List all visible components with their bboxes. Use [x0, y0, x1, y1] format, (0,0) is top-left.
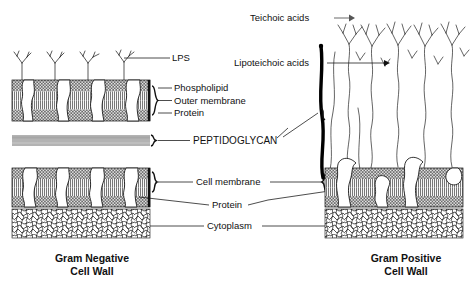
lipoteichoic-acid-strands — [330, 52, 360, 170]
peptidoglycan-cap — [319, 44, 323, 48]
cell-wall-comparison-diagram: LPS Phospholipid Outer membrane Protein — [0, 0, 473, 291]
cell-membrane-brace-left — [152, 172, 157, 192]
teichoic-acid-chains — [338, 22, 469, 168]
label-protein-bottom: Protein — [212, 199, 242, 210]
lipoteichoic-acids-arrowhead — [384, 60, 390, 66]
caption-left-line1: Gram Negative — [55, 252, 129, 264]
cytoplasm-right — [325, 209, 463, 238]
outer-membrane-brace — [152, 86, 158, 115]
label-outer-membrane: Outer membrane — [174, 95, 246, 106]
label-cytoplasm: Cytoplasm — [207, 220, 252, 231]
label-peptidoglycan: PEPTIDOGLYCAN — [193, 135, 277, 146]
label-phospholipid: Phospholipid — [174, 82, 228, 93]
peptidoglycan-tick — [277, 128, 288, 138]
peptidoglycan-leader-right — [283, 113, 318, 137]
label-teichoic-acids: Teichoic acids — [250, 12, 309, 23]
gram-negative-panel: LPS Phospholipid Outer membrane Protein — [12, 50, 288, 277]
lps-chains — [14, 50, 134, 80]
teichoic-acids-arrowhead — [349, 15, 355, 22]
label-lps: LPS — [172, 52, 190, 63]
caption-right-line2: Cell Wall — [384, 265, 427, 277]
label-lipoteichoic-acids: Lipoteichoic acids — [234, 57, 309, 68]
caption-left-line2: Cell Wall — [70, 265, 113, 277]
shared-center-labels: Cell membrane Protein Cytoplasm — [139, 172, 336, 231]
peptidoglycan-brace — [151, 135, 156, 146]
figure-canvas: LPS Phospholipid Outer membrane Protein — [0, 0, 473, 291]
label-protein-top: Protein — [174, 107, 204, 118]
peptidoglycan-layer-thin — [12, 135, 150, 146]
caption-right-line1: Gram Positive — [371, 252, 442, 264]
label-cell-membrane: Cell membrane — [196, 176, 260, 187]
cytoplasm-left — [12, 209, 150, 238]
protein-leader-right — [248, 190, 336, 205]
